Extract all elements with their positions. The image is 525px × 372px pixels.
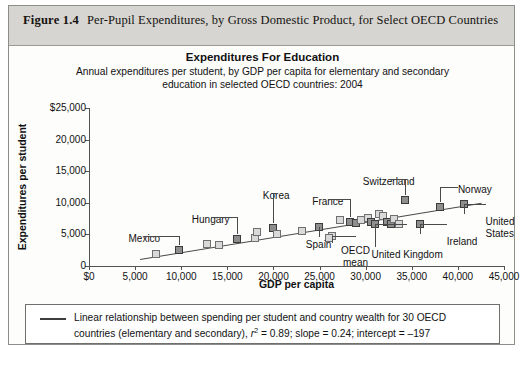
- x-tick: [181, 266, 182, 270]
- y-axis-title: Expenditures per student: [15, 108, 29, 266]
- x-axis-line: [89, 266, 504, 267]
- data-point: [401, 196, 409, 204]
- figure-frame: Figure 1.4 Per-Pupil Expenditures, by Gr…: [8, 5, 515, 345]
- leader-line: [332, 236, 355, 237]
- leader-line: [464, 204, 485, 205]
- data-point: [233, 235, 241, 243]
- leader-line: [420, 224, 421, 233]
- x-tick: [135, 266, 136, 270]
- figure-number: Figure 1.4: [23, 13, 79, 28]
- leader-line: [273, 193, 277, 194]
- data-point: [203, 240, 211, 248]
- leader-line: [332, 236, 333, 243]
- y-axis-line: [89, 108, 90, 266]
- point-label-hungary: Hungary: [192, 214, 230, 226]
- y-tick-label: 5,000: [16, 228, 86, 239]
- y-tick-label: 0: [16, 260, 86, 271]
- leader-line: [375, 224, 407, 225]
- leader-line: [179, 236, 180, 245]
- data-point: [273, 230, 281, 238]
- x-tick: [320, 266, 321, 270]
- data-point: [436, 203, 444, 211]
- leader-line: [375, 224, 376, 247]
- data-point: [336, 216, 344, 224]
- x-tick: [458, 266, 459, 270]
- data-point: [152, 250, 160, 258]
- leader-line: [389, 179, 406, 180]
- point-label-mexico: Mexico: [128, 233, 160, 245]
- y-tick-label: $25,000: [16, 102, 86, 113]
- point-label-spain: Spain: [306, 239, 332, 251]
- leader-line: [464, 204, 465, 214]
- data-point: [175, 246, 183, 254]
- point-label-korea: Korea: [263, 190, 290, 202]
- point-label-france: France: [312, 196, 343, 208]
- leader-line: [350, 199, 351, 217]
- leader-line: [405, 179, 406, 196]
- data-point: [215, 241, 223, 249]
- chart-area: Expenditures For Education Annual expend…: [9, 46, 516, 345]
- chart-title: Expenditures For Education: [9, 51, 516, 63]
- leader-line: [144, 236, 179, 237]
- x-tick: [89, 266, 90, 270]
- figure-header: Figure 1.4 Per-Pupil Expenditures, by Gr…: [9, 6, 514, 46]
- point-label-switzerland: Switzerland: [363, 176, 415, 188]
- x-tick: [412, 266, 413, 270]
- x-tick: [227, 266, 228, 270]
- x-axis-title: GDP per capita: [89, 278, 504, 290]
- point-label-united-kingdom: United Kingdom: [372, 249, 443, 261]
- leader-line: [319, 227, 320, 236]
- point-label-oecd-mean: OECD mean: [336, 245, 376, 268]
- data-point: [298, 227, 306, 235]
- leader-line: [328, 199, 350, 200]
- x-tick: [504, 266, 505, 270]
- y-tick-label: 20,000: [16, 134, 86, 145]
- y-tick-label: 15,000: [16, 165, 86, 176]
- leader-line: [237, 217, 238, 234]
- legend-box: Linear relationship between spending per…: [25, 304, 500, 344]
- point-label-ireland: Ireland: [447, 236, 478, 248]
- point-label-united-states: United States: [486, 216, 525, 239]
- leader-line: [440, 187, 441, 202]
- scatter-plot: $25,00020,00015,00010,0005,0000$05,00010…: [89, 108, 504, 266]
- y-tick-label: 10,000: [16, 197, 86, 208]
- leader-line: [273, 193, 274, 224]
- point-label-norway: Norway: [458, 184, 492, 196]
- x-tick: [273, 266, 274, 270]
- leader-line: [211, 217, 238, 218]
- figure-caption: Per-Pupil Expenditures, by Gross Domesti…: [87, 13, 502, 28]
- leader-line: [440, 187, 458, 188]
- legend-line-swatch: [40, 318, 66, 320]
- data-point: [253, 228, 261, 236]
- leader-line: [420, 224, 447, 225]
- legend-note-part2: = 0.89; slope = 0.24; intercept = –197: [258, 328, 430, 339]
- legend-note: Linear relationship between spending per…: [74, 311, 489, 340]
- chart-subtitle: Annual expenditures per student, by GDP …: [59, 66, 466, 91]
